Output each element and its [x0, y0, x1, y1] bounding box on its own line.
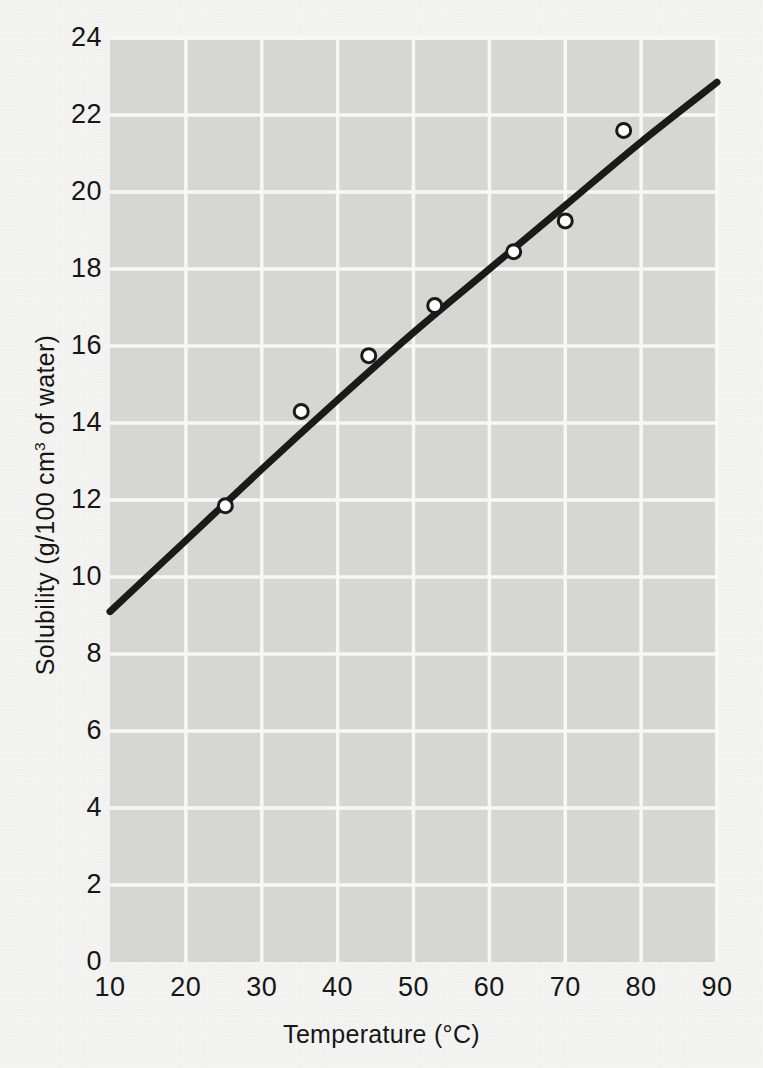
- x-axis-tick-label: 90: [677, 974, 757, 1001]
- solubility-chart-figure: 024681012141618202224 102030405060708090…: [0, 0, 763, 1068]
- data-point: [218, 499, 232, 513]
- y-axis-title-suffix: of water): [31, 335, 59, 442]
- y-axis-title-container: Solubility (g/100 cm3 of water): [31, 35, 65, 975]
- x-axis-tick-label: 50: [374, 974, 454, 1001]
- x-axis-tick-label: 30: [222, 974, 302, 1001]
- data-point: [294, 404, 308, 418]
- x-axis-tick-labels: 102030405060708090: [0, 974, 763, 1014]
- y-axis-title-superscript: 3: [31, 442, 48, 451]
- data-point: [617, 123, 631, 137]
- x-axis-title-text: Temperature (°C): [283, 1020, 480, 1048]
- x-axis-tick-label: 80: [601, 974, 681, 1001]
- plot-area: [110, 38, 717, 962]
- data-point: [507, 245, 521, 259]
- x-axis-tick-label: 70: [525, 974, 605, 1001]
- y-axis-title-prefix: Solubility (g/100 cm: [31, 451, 59, 675]
- data-point: [428, 299, 442, 313]
- x-axis-title: Temperature (°C): [0, 1020, 763, 1049]
- x-axis-tick-label: 10: [70, 974, 150, 1001]
- plot-canvas: [110, 38, 717, 962]
- x-axis-tick-label: 20: [146, 974, 226, 1001]
- x-axis-tick-label: 40: [298, 974, 378, 1001]
- x-axis-tick-label: 60: [449, 974, 529, 1001]
- data-point: [558, 214, 572, 228]
- y-axis-title: Solubility (g/100 cm3 of water): [31, 35, 60, 975]
- data-point: [362, 349, 376, 363]
